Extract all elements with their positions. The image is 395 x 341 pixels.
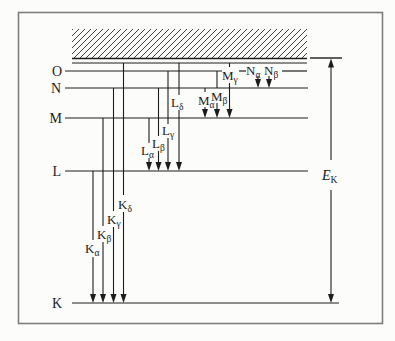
transition-N-alpha-label: Nα [246,63,260,80]
transition-L-beta-arrowhead-icon [156,162,162,171]
transition-N-beta-arrowhead-icon [266,79,272,88]
transition-K-delta-label: Kδ [118,197,132,214]
transition-L-beta-label: Lβ [152,136,165,153]
transition-K-gamma-label: Kγ [107,212,121,229]
figure-canvas: ONMLKKαKβKγKδLαLβLγLδMαMβMγNαNβEK [0,0,395,341]
transition-K-beta-arrowhead-icon [100,294,106,303]
level-label-shell-N: N [51,81,61,96]
ek-bottom-arrowhead-icon [328,294,334,303]
transition-L-alpha-arrowhead-icon [146,162,152,171]
continuum-hatching-icon [72,29,307,58]
ek-label: EK [321,168,338,185]
transition-K-delta-arrowhead-icon [121,294,127,303]
transition-N-beta-label: Nβ [264,63,278,80]
transition-L-delta-label: Lδ [171,95,184,112]
transition-K-beta-label: Kβ [97,227,111,244]
transition-K-alpha-label: Kα [85,241,99,258]
transition-M-alpha-arrowhead-icon [202,109,208,118]
transition-L-gamma-label: Lγ [162,123,174,140]
transition-L-gamma-arrowhead-icon [165,162,171,171]
transition-K-gamma-arrowhead-icon [111,294,117,303]
level-label-shell-O: O [52,64,62,79]
transition-N-alpha-arrowhead-icon [255,79,261,88]
transition-M-gamma-arrowhead-icon [227,109,233,118]
transition-K-alpha-arrowhead-icon [90,294,96,303]
transition-M-gamma-label: Mγ [222,68,238,85]
level-label-shell-K: K [52,296,62,311]
level-label-shell-L: L [52,164,61,179]
transition-M-beta-arrowhead-icon [214,109,220,118]
transition-M-beta-label: Mβ [211,89,228,106]
transition-L-delta-arrowhead-icon [176,162,182,171]
level-label-shell-M: M [50,111,63,126]
energy-level-diagram: ONMLKKαKβKγKδLαLβLγLδMαMβMγNαNβEK [0,0,395,341]
ek-top-arrowhead-icon [328,59,334,68]
